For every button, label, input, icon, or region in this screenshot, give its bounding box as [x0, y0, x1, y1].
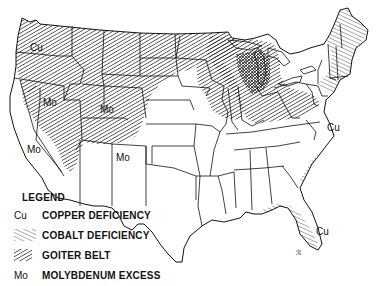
label-cu-washington: Cu [30, 42, 43, 53]
legend-label-copper: COPPER DEFICIENCY [42, 210, 151, 221]
label-mo-new-mexico: Mo [116, 152, 130, 163]
legend-item-molybdenum: Mo MOLYBDENUM EXCESS [14, 268, 161, 282]
legend-label-cobalt: COBALT DEFICIENCY [42, 230, 150, 241]
legend-label-goiter: GOITER BELT [42, 250, 111, 261]
legend-item-goiter: GOITER BELT [14, 248, 111, 262]
legend-item-copper: Cu COPPER DEFICIENCY [14, 208, 151, 222]
legend-item-cobalt: COBALT DEFICIENCY [14, 228, 150, 242]
label-cu-virginia: Cu [327, 122, 340, 133]
goiter-hatch-icon [14, 249, 42, 261]
label-mo-nevada: Mo [43, 97, 57, 108]
goiter-belt-region [14, 18, 320, 172]
author-mark: ℛ [296, 249, 302, 256]
legend-label-molybdenum: MOLYBDENUM EXCESS [42, 270, 161, 281]
molybdenum-symbol: Mo [14, 270, 42, 281]
label-cu-florida: Cu [316, 226, 329, 237]
us-map: Cu Mo Mo Mo Mo Cu Cu ℛ [0, 0, 392, 286]
copper-symbol: Cu [14, 210, 42, 221]
legend-title: LEGEND [22, 192, 65, 203]
cobalt-hatch-icon [14, 229, 42, 241]
label-mo-california: Mo [27, 144, 41, 155]
label-mo-utah: Mo [100, 104, 114, 115]
